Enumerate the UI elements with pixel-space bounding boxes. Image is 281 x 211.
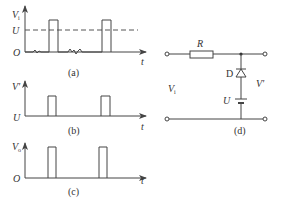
panel-c-y-label: Vo (12, 141, 21, 153)
diode-label: D (226, 68, 233, 79)
panel-a-x-label: t (141, 56, 144, 67)
panel-d-circuit: R D U Vi V' (d) (165, 38, 267, 137)
panel-c-x-label: t (141, 175, 144, 186)
panel-a-origin-label: O (13, 47, 20, 58)
output-voltage-label: V' (256, 78, 265, 89)
panel-a-caption: (a) (68, 67, 79, 79)
panel-b-caption: (b) (68, 125, 80, 137)
panel-c-origin-label: O (13, 173, 20, 184)
battery-label: U (223, 95, 231, 106)
panel-b-y-label: V' (12, 81, 21, 92)
panel-b-clipped-waveform: V' U t (b) (12, 81, 146, 137)
input-terminal-top (165, 52, 169, 56)
resistor-label: R (196, 38, 203, 49)
panel-a-noise-signal (25, 20, 111, 54)
panel-a-y-label: Vi (12, 9, 20, 21)
panel-b-origin-label: U (13, 112, 21, 123)
output-terminal-bottom (263, 117, 267, 121)
clipping-circuit-figure: Vi U O t (a) V' U t (b) Vo O t (c) (0, 0, 281, 211)
panel-a-level-label: U (12, 25, 20, 36)
panel-c-caption: (c) (68, 186, 79, 198)
diode-icon (236, 69, 246, 77)
battery-icon (235, 99, 247, 103)
panel-b-x-label: t (141, 121, 144, 132)
panel-a-input-waveform: Vi U O t (a) (12, 6, 146, 79)
panel-c-pulse-signal (48, 147, 107, 178)
input-voltage-label: Vi (168, 83, 176, 95)
panel-b-pulse-signal (48, 96, 110, 116)
output-terminal-top (263, 52, 267, 56)
input-terminal-bottom (165, 117, 169, 121)
panel-d-caption: (d) (234, 125, 246, 137)
panel-c-output-waveform: Vo O t (c) (12, 141, 146, 198)
resistor-icon (190, 51, 213, 58)
